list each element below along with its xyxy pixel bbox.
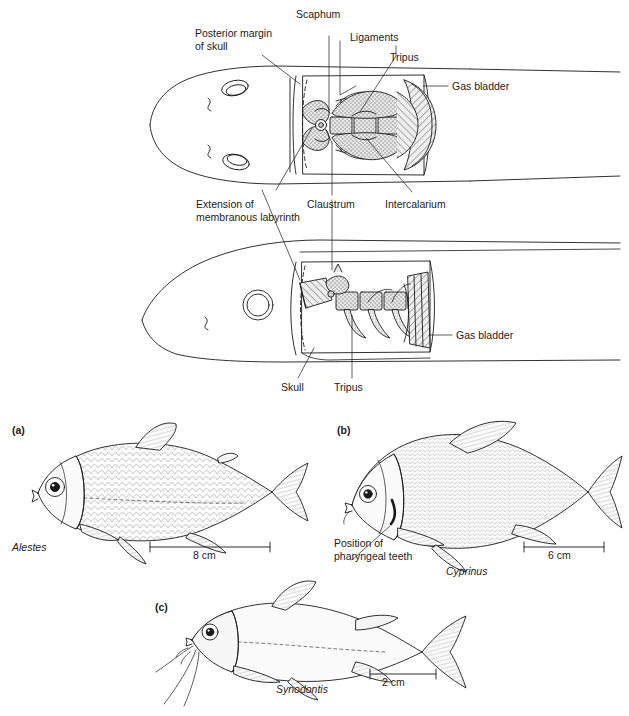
dorsal-diagram-art	[150, 36, 620, 195]
label-gas-bladder-dorsal: Gas bladder	[452, 80, 509, 93]
scale-bar-label-c: 2 cm	[382, 676, 405, 688]
label-skull: Skull	[281, 381, 304, 394]
label-posterior-margin-of-skull: Posterior margin of skull	[195, 27, 272, 52]
label-ligaments: Ligaments	[350, 31, 398, 44]
panel-label-b: (b)	[337, 424, 350, 436]
figure-artwork	[0, 0, 629, 716]
panel-label-a: (a)	[12, 424, 25, 436]
species-name-synodontis: Synodontis	[276, 683, 328, 695]
label-tripus: Tripus	[390, 51, 419, 64]
panel-label-c: (c)	[155, 601, 168, 613]
panel-a-fish-art	[32, 423, 308, 564]
label-position-of-pharyngeal-teeth: Position of pharyngeal teeth	[334, 537, 412, 562]
label-extension-of-membranous-labyrinth: Extension of membranous labyrinth	[196, 198, 300, 223]
label-intercalarium: Intercalarium	[385, 198, 446, 211]
label-scaphum: Scaphum	[296, 8, 340, 21]
species-name-alestes: Alestes	[12, 541, 46, 553]
scale-bar-label-b: 6 cm	[548, 549, 571, 561]
scale-bar-label-a: 8 cm	[193, 549, 216, 561]
label-tripus-lateral: Tripus	[334, 381, 363, 394]
label-gas-bladder-lateral: Gas bladder	[456, 329, 513, 342]
label-claustrum: Claustrum	[307, 198, 355, 211]
figure-canvas: Posterior margin of skull Scaphum Ligame…	[0, 0, 629, 716]
species-name-cyprinus: Cyprinus	[446, 565, 487, 577]
